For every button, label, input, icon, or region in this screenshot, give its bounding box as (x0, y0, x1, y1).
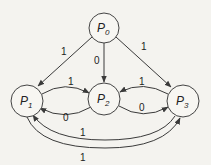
node-p1: P1 (11, 85, 43, 117)
edge-p3-p1 (33, 115, 175, 140)
node-p3: P3 (167, 85, 199, 117)
label-p0-p2: 0 (94, 55, 100, 66)
label-p1-p3-upper: 1 (80, 127, 86, 138)
label-p2-p1: 0 (63, 112, 69, 123)
edge-p0-p1 (38, 37, 92, 86)
node-p2: P2 (88, 83, 120, 115)
label-p1-p3-lower: 1 (80, 152, 86, 163)
state-diagram: 1 0 1 1 0 1 0 1 1 P0 P1 P2 P3 (0, 0, 211, 165)
node-p0: P0 (89, 13, 119, 43)
edge-p1-p3 (27, 117, 180, 148)
label-p3-p2: 1 (139, 76, 145, 87)
label-p1-p2: 1 (68, 76, 74, 87)
label-p2-p3: 0 (139, 102, 145, 113)
edge-p1-p2 (42, 87, 89, 94)
label-p0-p1: 1 (61, 46, 67, 57)
label-p0-p3: 1 (141, 41, 147, 52)
edge-p3-p2 (120, 86, 168, 94)
